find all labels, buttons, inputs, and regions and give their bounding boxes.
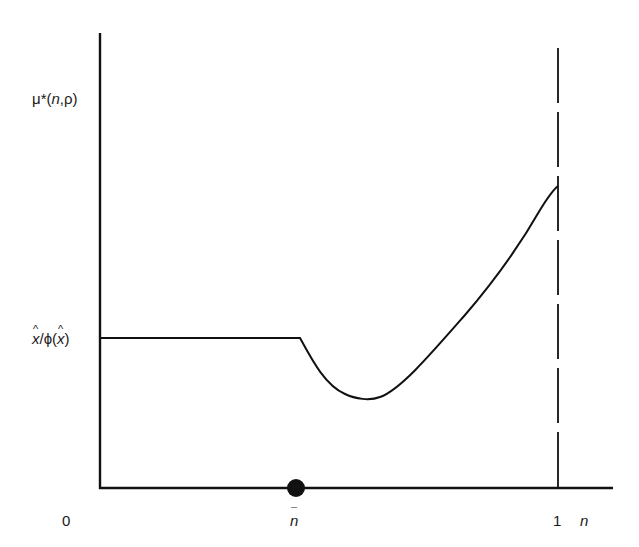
hat-accent-icon: ^ xyxy=(33,324,38,335)
x-tick-zero: 0 xyxy=(62,513,70,528)
y-label-top-var: n xyxy=(51,90,59,107)
x-tick-n-bar: n¯ xyxy=(290,513,298,528)
y-label-mu-star: μ*(n,ρ) xyxy=(32,91,78,106)
n-bar-marker xyxy=(287,479,305,497)
x-axis-label: n xyxy=(580,513,588,528)
y-label-top-suffix: ,ρ) xyxy=(60,90,78,107)
hat-accent-icon: ^ xyxy=(58,324,63,335)
y-label-mid-suffix: ) xyxy=(65,330,70,347)
x-tick-one: 1 xyxy=(553,513,561,528)
y-label-mid-mid: /ϕ( xyxy=(40,330,58,347)
bar-accent-icon: ¯ xyxy=(291,507,297,518)
function-curve xyxy=(100,186,558,399)
y-label-top-prefix: μ*( xyxy=(32,90,51,107)
diagram-canvas xyxy=(0,0,639,547)
y-label-x-hat-ratio: x^/ϕ(x^) xyxy=(32,331,70,346)
